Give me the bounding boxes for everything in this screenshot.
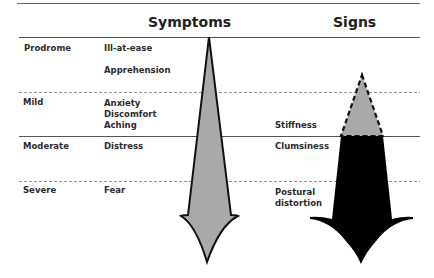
signs-header: Signs: [333, 14, 376, 30]
symptom-anxiety: Anxiety: [104, 98, 140, 109]
stage-label-mild: Mild: [23, 97, 43, 108]
symptom-ill-at-ease: Ill-at-ease: [104, 43, 152, 54]
sign-postural: Postural: [275, 187, 315, 198]
symptom-distress: Distress: [104, 141, 143, 152]
signs-arrow-lower: [310, 136, 413, 264]
diagram-canvas: [0, 0, 434, 278]
symptoms-header: Symptoms: [148, 14, 231, 30]
symptom-aching: Aching: [104, 120, 137, 131]
sign-stiffness: Stiffness: [275, 120, 317, 131]
symptom-fear: Fear: [104, 185, 125, 196]
symptoms-arrow: [181, 37, 238, 262]
stage-label-severe: Severe: [23, 185, 56, 196]
sign-clumsiness: Clumsiness: [275, 141, 329, 152]
stage-label-prodrome: Prodrome: [24, 43, 71, 54]
symptom-apprehension: Apprehension: [104, 65, 170, 76]
symptom-discomfort: Discomfort: [104, 109, 157, 120]
stage-label-moderate: Moderate: [23, 141, 69, 152]
sign-distortion: distortion: [275, 198, 322, 209]
signs-arrow-upper: [341, 75, 383, 136]
